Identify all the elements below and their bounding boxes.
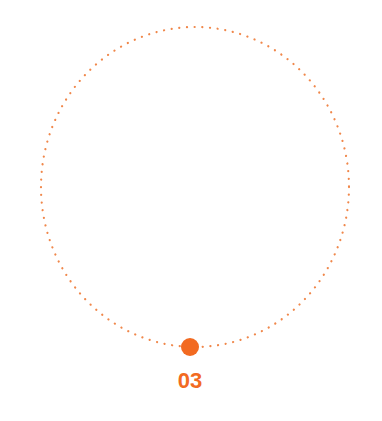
dotted-ring [41, 27, 349, 347]
step-marker-dot [181, 338, 199, 356]
step-number: 03 [150, 368, 230, 394]
dotted-circle-graphic [0, 0, 382, 421]
